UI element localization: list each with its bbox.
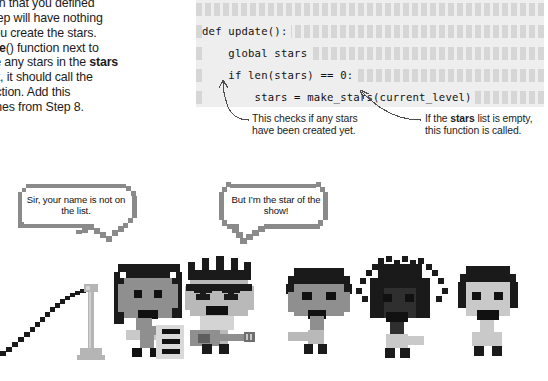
annotation-stars-empty: If the stars list is empty, this functio… bbox=[425, 113, 543, 138]
code-line-if: if len(stars) == 0: bbox=[202, 69, 356, 82]
annotation-checks-stars: This checks if any stars have been creat… bbox=[252, 113, 372, 138]
instruction-paragraph: ) function that you definedvious step wi… bbox=[0, 0, 168, 115]
velvet-rope bbox=[0, 289, 86, 356]
clipboard bbox=[156, 325, 184, 359]
character-fan-bob-hair bbox=[458, 266, 518, 356]
character-rock-star bbox=[185, 256, 255, 354]
speech-bubble-bouncer-text: Sir, your name is not on the list. bbox=[24, 194, 128, 216]
code-line-def: def update(): bbox=[202, 25, 291, 38]
illustrated-tutorial-page: ) function that you definedvious step wi… bbox=[0, 0, 548, 381]
character-fan-short-hair bbox=[286, 268, 352, 354]
code-line-assign: stars = make_stars(current_level) bbox=[202, 91, 475, 104]
stanchion-post bbox=[77, 284, 105, 360]
character-fan-spiky-hair bbox=[356, 256, 448, 358]
speech-bubble-star-text: But I’m the star of the show! bbox=[228, 194, 324, 216]
guitar bbox=[190, 330, 255, 346]
code-hatch-band bbox=[196, 3, 544, 16]
code-line-global: global stars bbox=[202, 47, 310, 60]
character-bouncer bbox=[114, 264, 184, 359]
code-block: def update(): global stars if len(stars)… bbox=[196, 0, 544, 107]
